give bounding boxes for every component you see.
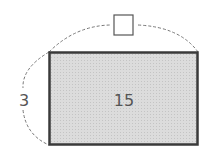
width-arc-right <box>138 25 198 52</box>
height-arc-top <box>23 52 49 88</box>
height-arc-bottom <box>23 110 49 145</box>
area-diagram: 3 15 <box>0 0 209 158</box>
height-label: 3 <box>19 91 29 110</box>
width-arc <box>49 25 110 52</box>
unknown-width-box[interactable] <box>114 15 133 35</box>
area-label: 15 <box>114 91 134 110</box>
